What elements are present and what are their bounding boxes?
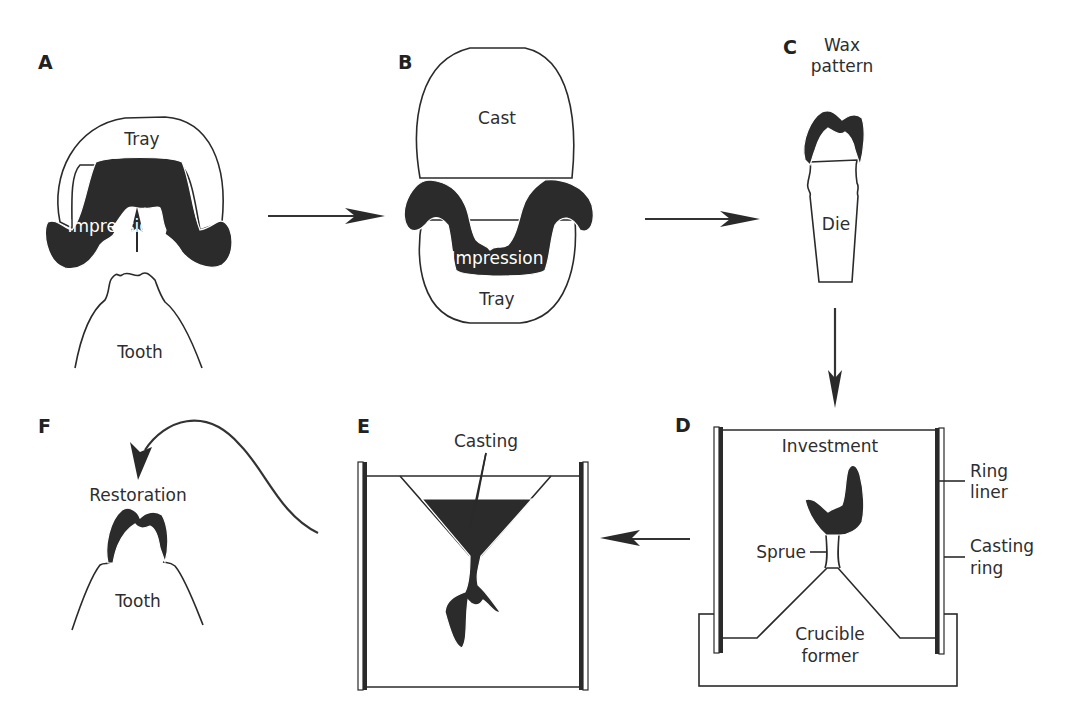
label-impression-b: Impression xyxy=(450,248,543,268)
panel-letter-b: B xyxy=(398,51,412,73)
ring-liner-left-e xyxy=(363,462,367,690)
label-wax: Wax xyxy=(824,35,860,55)
casting-ring-left xyxy=(714,427,719,653)
dental-casting-diagram: A Impression Tray Tooth B Cast Impressio… xyxy=(0,0,1070,715)
wax-pattern xyxy=(804,111,864,165)
casting-ring-right xyxy=(939,428,944,654)
arrow-d-to-e xyxy=(600,530,690,546)
restoration-crown xyxy=(107,508,168,563)
panel-letter-f: F xyxy=(38,415,51,437)
ring-liner-left xyxy=(719,427,723,653)
label-cast: Cast xyxy=(478,108,516,128)
arrow-c-to-d xyxy=(828,308,842,408)
label-casting: Casting xyxy=(454,431,518,451)
panel-letter-e: E xyxy=(357,415,370,437)
arrow-b-to-c xyxy=(645,211,760,227)
ring-right-e xyxy=(583,462,588,690)
panel-d: D Investment Sprue Ring liner Casting ri… xyxy=(675,414,1034,686)
panel-letter-c: C xyxy=(783,36,797,58)
label-pattern: pattern xyxy=(811,56,873,76)
panel-c: C Wax pattern Die xyxy=(783,35,873,282)
label-crucible: Crucible xyxy=(795,624,865,644)
label-sprue: Sprue xyxy=(756,542,806,562)
label-die: Die xyxy=(822,214,850,234)
label-tooth-f: Tooth xyxy=(114,591,161,611)
label-former: former xyxy=(801,646,858,666)
panel-letter-a: A xyxy=(38,51,53,73)
label-tooth-a: Tooth xyxy=(116,342,163,362)
ring-left-e xyxy=(358,462,363,690)
panel-f: F Restoration Tooth xyxy=(38,415,203,630)
panel-letter-d: D xyxy=(675,414,691,436)
label-casting-ring-2: ring xyxy=(970,558,1003,578)
label-investment: Investment xyxy=(782,436,879,456)
label-casting-ring-1: Casting xyxy=(970,536,1034,556)
panel-b: B Cast Impression Tray xyxy=(398,48,593,323)
label-liner: liner xyxy=(970,482,1008,502)
arrow-a-to-b xyxy=(268,208,385,224)
label-ring: Ring xyxy=(970,461,1008,481)
panel-e: E Casting xyxy=(357,415,588,690)
panel-a: A Impression Tray Tooth xyxy=(38,51,232,368)
label-restoration: Restoration xyxy=(89,485,186,505)
label-impression-a: Impression xyxy=(67,216,160,236)
label-tray-a: Tray xyxy=(123,129,159,149)
label-tray-b: Tray xyxy=(478,289,514,309)
